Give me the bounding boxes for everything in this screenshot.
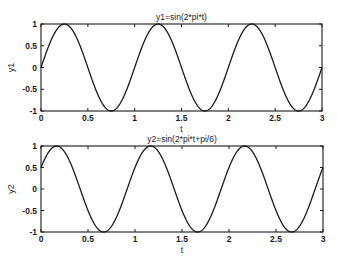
y-tick-label: 1: [32, 19, 37, 29]
x-axis-label: t: [180, 124, 183, 134]
chart-title: y2=sin(2*pi*t+pi/6): [147, 134, 217, 144]
x-tick-label: 2.5: [270, 234, 282, 244]
x-tick-label: 3: [321, 234, 326, 244]
y-tick-label: -0.5: [22, 84, 37, 94]
x-tick-label: 1: [133, 234, 138, 244]
x-tick-label: 0.5: [82, 113, 94, 123]
y-tick-label: 0.5: [25, 41, 37, 51]
x-tick-label: 2: [226, 113, 231, 123]
chart-title: y1=sin(2*pi*t): [156, 12, 207, 22]
y-tick-label: -1: [29, 227, 37, 237]
y-tick-label: -1: [29, 106, 37, 116]
y-tick-label: 0: [32, 63, 37, 73]
subplot-y2: 00.511.522.53-1-0.500.51y2=sin(2*pi*t+pi…: [6, 134, 326, 255]
axes-frame: [41, 146, 323, 232]
x-tick-label: 0.5: [82, 234, 94, 244]
y-tick-label: 1: [32, 141, 37, 151]
x-tick-label: 1: [132, 113, 137, 123]
series-line-y2: [41, 146, 323, 232]
y-tick-label: 0: [32, 184, 37, 194]
subplot-y1: 00.511.522.53-1-0.500.51y1=sin(2*pi*t)y1…: [6, 12, 325, 134]
y-tick-label: -0.5: [22, 206, 37, 216]
x-tick-label: 1.5: [176, 234, 188, 244]
x-tick-label: 3: [320, 113, 325, 123]
y-axis-label: y2: [6, 184, 16, 194]
figure: 00.511.522.53-1-0.500.51y1=sin(2*pi*t)y1…: [0, 0, 337, 265]
y-axis-label: y1: [6, 63, 16, 73]
series-line-y1: [41, 24, 322, 111]
x-tick-label: 1.5: [176, 113, 188, 123]
x-tick-label: 0: [39, 113, 44, 123]
y-tick-label: 0.5: [25, 163, 37, 173]
x-tick-label: 2: [227, 234, 232, 244]
x-axis-label: t: [181, 245, 184, 255]
x-tick-label: 2.5: [269, 113, 281, 123]
x-tick-label: 0: [39, 234, 44, 244]
